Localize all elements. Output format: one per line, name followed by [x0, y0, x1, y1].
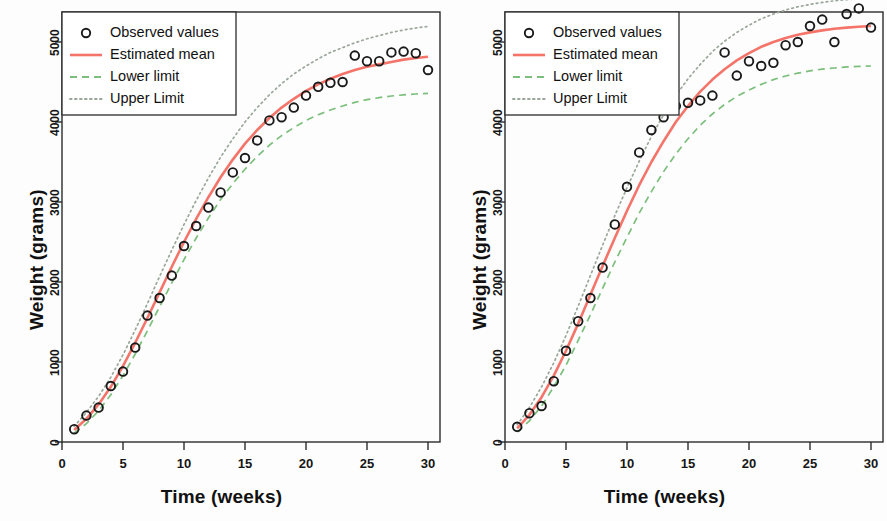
y-tick-label: 1000: [491, 350, 505, 377]
data-point: [387, 48, 396, 57]
x-tick-label: 0: [42, 456, 82, 471]
data-point: [229, 168, 238, 177]
legend-label: Observed values: [110, 24, 219, 40]
y-tick-label: 3000: [48, 190, 62, 217]
x-tick-label: 5: [103, 456, 143, 471]
data-point: [635, 148, 644, 157]
data-point: [290, 103, 299, 112]
x-axis-label: Time (weeks): [0, 486, 443, 508]
legend-label: Upper Limit: [110, 90, 184, 106]
legend-label: Lower limit: [553, 68, 622, 84]
x-tick-label: 25: [347, 456, 387, 471]
y-axis-label: Weight (grams): [26, 189, 48, 330]
y-tick-label: 0: [48, 439, 62, 446]
x-tick-label: 10: [164, 456, 204, 471]
chart-panel-right: Weight (grams) Time (weeks) Observed val…: [443, 0, 886, 521]
y-tick-label: 4000: [48, 110, 62, 137]
x-tick-label: 30: [408, 456, 448, 471]
x-tick-label: 10: [607, 456, 647, 471]
x-tick-label: 20: [729, 456, 769, 471]
x-tick-label: 0: [485, 456, 525, 471]
data-point: [867, 23, 876, 32]
data-point: [696, 96, 705, 105]
x-axis-label: Time (weeks): [443, 486, 886, 508]
data-point: [302, 91, 311, 100]
y-tick-label: 2000: [48, 270, 62, 297]
x-tick-label: 15: [668, 456, 708, 471]
x-tick-label: 30: [851, 456, 887, 471]
legend-label: Observed values: [553, 24, 662, 40]
data-point: [424, 66, 433, 75]
y-tick-label: 2000: [491, 270, 505, 297]
data-point: [253, 136, 262, 145]
data-point: [399, 47, 408, 56]
data-point: [818, 15, 827, 24]
y-tick-label: 1000: [48, 350, 62, 377]
data-point: [720, 48, 729, 57]
plot-canvas-left: [0, 0, 443, 521]
figure-container: Weight (grams) Time (weeks) Observed val…: [0, 0, 887, 521]
y-axis-label: Weight (grams): [469, 189, 491, 330]
chart-panel-left: Weight (grams) Time (weeks) Observed val…: [0, 0, 443, 521]
x-tick-label: 15: [225, 456, 265, 471]
data-point: [363, 57, 372, 66]
y-tick-label: 5000: [491, 30, 505, 57]
data-point: [757, 62, 766, 71]
data-point: [204, 203, 213, 212]
data-point: [806, 22, 815, 31]
y-tick-label: 5000: [48, 30, 62, 57]
y-tick-label: 3000: [491, 190, 505, 217]
legend-label: Estimated mean: [553, 46, 658, 62]
data-point: [733, 71, 742, 80]
data-point: [537, 402, 546, 411]
series-lower-limit: [74, 93, 428, 433]
data-point: [216, 188, 225, 197]
data-point: [769, 59, 778, 68]
x-tick-label: 20: [286, 456, 326, 471]
series-lower-limit: [517, 66, 871, 432]
legend-label: Estimated mean: [110, 46, 215, 62]
legend-label: Lower limit: [110, 68, 179, 84]
x-tick-label: 25: [790, 456, 830, 471]
data-point: [842, 10, 851, 19]
y-tick-label: 0: [491, 439, 505, 446]
data-point: [794, 38, 803, 47]
y-tick-label: 4000: [491, 110, 505, 137]
x-tick-label: 5: [546, 456, 586, 471]
data-point: [412, 49, 421, 58]
plot-canvas-right: [443, 0, 886, 521]
data-point: [830, 38, 839, 47]
data-point: [351, 51, 360, 60]
data-point: [781, 41, 790, 50]
data-point: [241, 154, 250, 163]
data-point: [338, 78, 347, 87]
data-point: [277, 113, 286, 122]
data-point: [708, 91, 717, 100]
data-point: [623, 183, 632, 192]
data-point: [745, 57, 754, 66]
legend-label: Upper Limit: [553, 90, 627, 106]
